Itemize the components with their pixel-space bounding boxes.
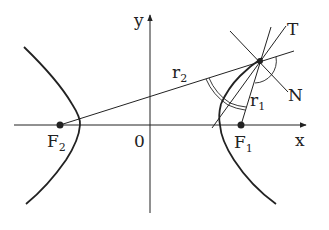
normal-label: N	[288, 85, 303, 105]
r1-label: r1	[250, 90, 265, 113]
focal-radius-r1	[241, 27, 271, 125]
focus-f1-dot	[238, 122, 245, 129]
tangent-line	[212, 26, 286, 128]
focus-f1-label: F1	[234, 132, 253, 155]
point-p	[257, 58, 263, 64]
y-axis-label: y	[133, 10, 144, 30]
focus-f2-label: F2	[47, 131, 66, 154]
tangent-label: T	[287, 19, 299, 39]
angle-arc-tangent-r1	[228, 105, 245, 110]
origin-label: 0	[134, 131, 145, 151]
x-axis-label: x	[295, 130, 305, 150]
focus-f2-dot	[57, 122, 64, 129]
r2-label: r2	[172, 62, 187, 85]
hyperbola-diagram: y x 0 F2 F1 r2 r1 T N	[0, 0, 329, 230]
